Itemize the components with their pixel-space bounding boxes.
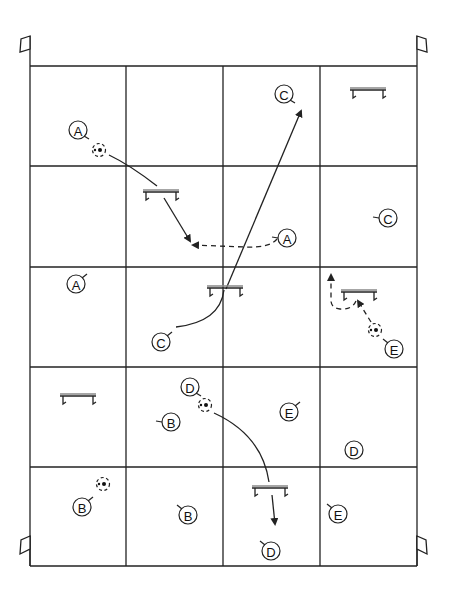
ball-icon <box>97 478 110 491</box>
player-c-marker: C <box>275 85 295 103</box>
corner-flag-icon <box>20 536 30 566</box>
field-grid <box>30 66 417 566</box>
player-a-marker: A <box>272 229 296 247</box>
pass-run-path <box>164 198 190 241</box>
facing-tick <box>156 421 162 422</box>
facing-tick <box>383 339 388 343</box>
hurdle-icon <box>143 190 179 200</box>
hurdle-icon <box>252 486 288 496</box>
player-d-marker: D <box>181 378 201 396</box>
pass-run-path <box>214 413 269 482</box>
player-c-marker: C <box>152 332 172 351</box>
hurdle-icon <box>207 286 243 296</box>
corner-flag-icon <box>417 536 427 566</box>
hurdle-icon <box>350 88 386 98</box>
player-label: C <box>279 88 288 103</box>
pass-run-path <box>176 290 224 327</box>
player-b-marker: B <box>177 505 197 524</box>
pass-run-path <box>109 155 157 186</box>
player-label: B <box>184 509 193 524</box>
player-a-marker: A <box>67 274 87 293</box>
facing-tick <box>260 541 265 545</box>
balls <box>93 144 382 491</box>
facing-tick <box>167 332 172 336</box>
player-label: C <box>383 212 392 227</box>
player-label: D <box>185 381 194 396</box>
player-e-marker: E <box>327 504 347 523</box>
player-label: B <box>167 416 176 431</box>
player-c-marker: C <box>373 209 397 227</box>
player-label: A <box>283 232 292 247</box>
facing-tick <box>373 217 379 218</box>
hurdle-icon <box>341 290 377 300</box>
player-e-marker: E <box>383 339 403 358</box>
facing-tick <box>88 497 93 501</box>
player-label: C <box>156 336 165 351</box>
player-label: D <box>349 444 358 459</box>
player-label: E <box>334 508 343 523</box>
player-a-marker: A <box>69 121 89 139</box>
player-d-marker: D <box>345 441 363 459</box>
corner-flag-icon <box>417 36 427 66</box>
player-e-marker: E <box>280 402 300 421</box>
movement-paths <box>109 111 371 524</box>
dribble-path <box>358 301 371 322</box>
ball-icon <box>93 144 106 157</box>
player-label: B <box>78 501 87 516</box>
pass-run-path <box>272 495 275 524</box>
pass-run-path <box>226 111 301 289</box>
players: AAACCCDDDBBBEEE <box>67 85 403 560</box>
facing-tick <box>84 136 89 139</box>
corner-flag-icon <box>20 36 30 66</box>
player-label: A <box>72 278 81 293</box>
player-d-marker: D <box>260 541 280 560</box>
player-label: E <box>285 406 294 421</box>
facing-tick <box>82 274 87 278</box>
player-label: A <box>74 124 83 139</box>
hurdle-icon <box>60 394 96 404</box>
facing-tick <box>327 504 332 508</box>
facing-tick <box>196 393 201 396</box>
ball-icon <box>369 324 382 337</box>
ball-icon <box>199 399 212 412</box>
player-label: D <box>266 545 275 560</box>
drill-field: AAACCCDDDBBBEEE <box>0 0 451 597</box>
facing-tick <box>177 505 182 509</box>
facing-tick <box>295 402 300 406</box>
facing-tick <box>272 237 278 238</box>
player-b-marker: B <box>73 497 93 516</box>
player-label: E <box>390 343 399 358</box>
dribble-path <box>193 239 277 247</box>
player-b-marker: B <box>156 413 180 431</box>
facing-tick <box>290 100 295 103</box>
